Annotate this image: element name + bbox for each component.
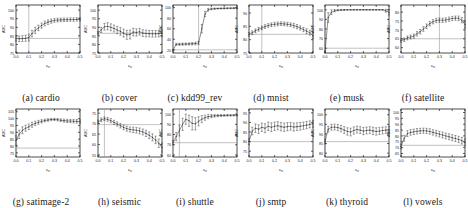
svg-text:cp: cp: [128, 63, 132, 68]
svg-text:0.3: 0.3: [437, 159, 442, 163]
svg-text:90: 90: [10, 131, 14, 135]
svg-text:cp: cp: [203, 167, 207, 172]
svg-text:95: 95: [319, 123, 323, 127]
svg-text:0.4: 0.4: [450, 55, 455, 59]
svg-text:75: 75: [395, 20, 399, 24]
svg-text:0.1: 0.1: [183, 159, 188, 163]
svg-text:70: 70: [395, 146, 399, 150]
panel-f: 60657075800.00.10.20.30.40.5AUCcp (f) sa…: [385, 0, 461, 104]
svg-text:0.0: 0.0: [247, 159, 252, 163]
svg-text:100: 100: [90, 9, 96, 13]
svg-text:0.0: 0.0: [171, 55, 176, 59]
panel-caption-b: (b) cover: [82, 93, 157, 103]
svg-text:90: 90: [319, 18, 323, 22]
panel-caption-g: (g) satimage-2: [0, 197, 82, 207]
svg-text:0.1: 0.1: [411, 55, 416, 59]
svg-text:75: 75: [395, 140, 399, 144]
svg-text:cp: cp: [128, 167, 132, 172]
svg-text:90: 90: [319, 133, 323, 137]
svg-text:0.2: 0.2: [121, 55, 126, 59]
svg-text:0.0: 0.0: [323, 55, 328, 59]
svg-text:100: 100: [8, 117, 14, 121]
svg-text:90: 90: [167, 123, 171, 127]
svg-text:95: 95: [92, 17, 96, 21]
plot-e: 607080901000.00.10.20.30.40.5AUCcp: [309, 0, 385, 68]
svg-text:0.3: 0.3: [285, 159, 290, 163]
svg-text:0.3: 0.3: [52, 159, 57, 163]
svg-text:cp: cp: [203, 63, 207, 68]
svg-text:0.3: 0.3: [52, 55, 57, 59]
svg-text:0.3: 0.3: [209, 159, 214, 163]
svg-text:100: 100: [8, 9, 14, 13]
panel-d: 758085900.00.10.20.30.40.5AUCcp (d) mnis…: [233, 0, 309, 104]
figure-row-top: 75808590951000.00.10.20.30.40.5AUCcp (a)…: [0, 0, 461, 104]
svg-text:AUC: AUC: [311, 129, 315, 137]
svg-text:0.3: 0.3: [134, 55, 139, 59]
svg-text:70: 70: [319, 37, 323, 41]
svg-text:cp: cp: [279, 63, 283, 68]
svg-text:cp: cp: [46, 167, 50, 172]
svg-text:AUC: AUC: [159, 129, 163, 137]
svg-text:85: 85: [243, 25, 247, 29]
svg-text:40: 40: [167, 38, 171, 42]
svg-text:0.4: 0.4: [65, 55, 70, 59]
svg-text:85: 85: [10, 138, 14, 142]
svg-text:0.3: 0.3: [361, 159, 366, 163]
svg-text:0.0: 0.0: [399, 55, 404, 59]
svg-text:0.1: 0.1: [108, 159, 113, 163]
svg-text:0.3: 0.3: [361, 55, 366, 59]
plot-k: 808590951000.00.10.20.30.40.5AUCcp: [309, 104, 385, 172]
svg-text:100: 100: [165, 113, 171, 117]
svg-text:80: 80: [319, 28, 323, 32]
plot-d: 758085900.00.10.20.30.40.5AUCcp: [233, 0, 309, 68]
svg-text:60: 60: [92, 143, 96, 147]
svg-text:100: 100: [317, 113, 323, 117]
panel-caption-j: (j) smtp: [233, 197, 309, 207]
svg-text:0.2: 0.2: [272, 159, 277, 163]
plot-b: 75808590951000.00.10.20.30.40.5AUCcp: [82, 0, 157, 68]
svg-text:AUC: AUC: [387, 129, 391, 137]
svg-text:90: 90: [243, 121, 247, 125]
svg-text:AUC: AUC: [311, 25, 315, 33]
svg-text:0.2: 0.2: [424, 55, 429, 59]
svg-text:0.1: 0.1: [411, 159, 416, 163]
svg-text:0.3: 0.3: [209, 55, 214, 59]
svg-text:65: 65: [395, 37, 399, 41]
svg-text:80: 80: [167, 133, 171, 137]
svg-text:90: 90: [92, 26, 96, 30]
svg-text:90: 90: [395, 123, 399, 127]
svg-text:85: 85: [92, 35, 96, 39]
svg-text:0.0: 0.0: [14, 55, 19, 59]
svg-text:60: 60: [395, 46, 399, 50]
panel-caption-a: (a) cardio: [0, 93, 82, 103]
svg-text:cp: cp: [279, 167, 283, 172]
svg-text:0.2: 0.2: [39, 55, 44, 59]
svg-text:85: 85: [243, 131, 247, 135]
figure-row-bottom: 75808590951001050.00.10.20.30.40.5AUCcp …: [0, 104, 461, 208]
plot-j: 75808590950.00.10.20.30.40.5AUCcp: [233, 104, 309, 172]
svg-text:AUC: AUC: [387, 25, 391, 33]
svg-text:0.3: 0.3: [437, 55, 442, 59]
svg-text:60: 60: [167, 27, 171, 31]
panel-i: 607080901000.00.10.20.30.40.5AUCcp (i) s…: [157, 104, 233, 208]
svg-text:65: 65: [92, 133, 96, 137]
svg-text:0.0: 0.0: [14, 159, 19, 163]
svg-text:0.1: 0.1: [26, 55, 31, 59]
svg-text:0.0: 0.0: [323, 159, 328, 163]
panel-e: 607080901000.00.10.20.30.40.5AUCcp (e) m…: [309, 0, 385, 104]
svg-text:85: 85: [319, 142, 323, 146]
svg-text:0.2: 0.2: [39, 159, 44, 163]
svg-text:80: 80: [167, 17, 171, 21]
svg-text:105: 105: [8, 110, 14, 114]
svg-text:95: 95: [10, 124, 14, 128]
panel-caption-d: (d) mnist: [233, 93, 309, 103]
svg-text:0.1: 0.1: [183, 55, 188, 59]
plot-f: 60657075800.00.10.20.30.40.5AUCcp: [385, 0, 461, 68]
svg-text:80: 80: [395, 135, 399, 139]
svg-text:75: 75: [92, 112, 96, 116]
svg-text:AUC: AUC: [84, 25, 88, 33]
svg-text:0.2: 0.2: [196, 55, 201, 59]
svg-text:80: 80: [10, 145, 14, 149]
plot-a: 75808590951000.00.10.20.30.40.5AUCcp: [0, 0, 82, 68]
svg-text:90: 90: [243, 12, 247, 16]
